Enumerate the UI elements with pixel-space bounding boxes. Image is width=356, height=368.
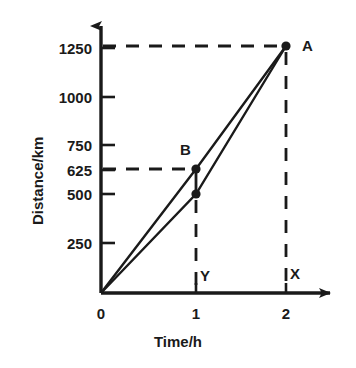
point-label-x: X bbox=[290, 266, 300, 281]
y-tick-label-750: 750 bbox=[38, 138, 92, 153]
y-tick-label-625: 625 bbox=[38, 163, 92, 178]
y-tick-label-500: 500 bbox=[38, 187, 92, 202]
distance-time-graph-figure: 1250 1000 750 625 500 250 0 1 2 A B X Y … bbox=[0, 0, 356, 368]
y-tick-label-250: 250 bbox=[38, 236, 92, 251]
data-point-a bbox=[281, 41, 290, 50]
y-tick-label-1250: 1250 bbox=[38, 41, 92, 56]
data-point-b bbox=[191, 164, 200, 173]
point-label-a: A bbox=[302, 38, 313, 53]
y-axis-title: Distance/km bbox=[30, 137, 45, 225]
x-axis-title: Time/h bbox=[154, 334, 202, 349]
x-tick-label-2: 2 bbox=[282, 306, 290, 321]
y-tick-label-1000: 1000 bbox=[38, 90, 92, 105]
data-point-500 bbox=[191, 189, 200, 198]
point-label-y: Y bbox=[200, 268, 210, 283]
x-tick-label-1: 1 bbox=[192, 306, 200, 321]
point-label-b: B bbox=[180, 142, 191, 157]
x-tick-label-0: 0 bbox=[97, 306, 105, 321]
